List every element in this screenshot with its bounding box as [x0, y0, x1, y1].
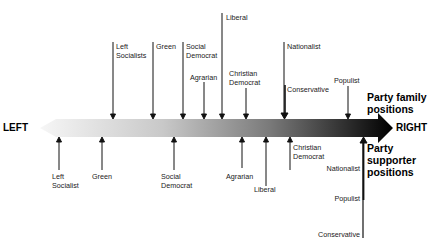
party-supporter-title: Party supporter positions: [367, 142, 416, 178]
family-label-green: Green: [156, 42, 176, 51]
family-label-agrarian: Agrarian: [190, 73, 217, 82]
supporter-label-populist: Populist: [312, 194, 360, 203]
axis-graphic: [0, 0, 438, 248]
family-label-christian-democrat: Christian Democrat: [229, 69, 260, 87]
left-label: LEFT: [3, 122, 28, 133]
supporter-label-conservative: Conservative: [300, 230, 360, 239]
party-family-arrows: [111, 13, 351, 119]
family-label-left-socialists: Left Socialists: [116, 42, 146, 60]
left-right-diagram: LEFT RIGHT Party family positions Party …: [0, 0, 438, 248]
supporter-label-christian-democrat: Christian Democrat: [293, 143, 324, 161]
party-family-title: Party family positions: [367, 91, 427, 115]
family-label-conservative: Conservative: [287, 85, 329, 94]
family-label-social-democrat: Social Democrat: [186, 42, 217, 60]
supporter-label-agrarian: Agrarian: [226, 172, 253, 181]
supporter-label-green: Green: [92, 172, 112, 181]
family-label-nationalist: Nationalist: [287, 42, 321, 51]
family-label-populist: Populist: [334, 76, 360, 85]
supporter-label-liberal: Liberal: [254, 185, 276, 194]
supporter-label-nationalist: Nationalist: [312, 164, 360, 173]
family-label-liberal: Liberal: [226, 13, 248, 22]
right-label: RIGHT: [396, 122, 427, 133]
left-right-arrow: [40, 113, 393, 143]
supporter-label-social-democrat: Social Democrat: [161, 172, 192, 190]
supporter-label-left-socialist: Left Socialist: [52, 172, 79, 190]
